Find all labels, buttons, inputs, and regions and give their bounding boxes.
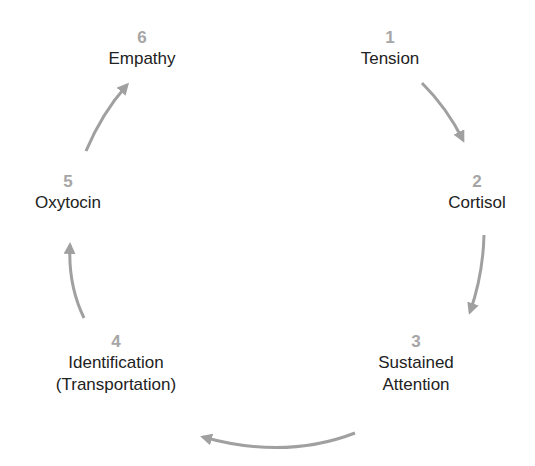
step-label-line-2: Attention	[378, 374, 454, 396]
cycle-arrows	[0, 0, 535, 466]
node-sustained-attention: 3 Sustained Attention	[378, 332, 454, 396]
node-cortisol: 2 Cortisol	[448, 172, 506, 214]
arrow-4-to-5	[70, 245, 84, 318]
step-number: 2	[448, 172, 506, 192]
node-empathy: 6 Empathy	[108, 28, 175, 70]
node-identification: 4 Identification (Transportation)	[56, 332, 176, 396]
step-label: Cortisol	[448, 192, 506, 214]
step-label-line-2: (Transportation)	[56, 374, 176, 396]
step-label: Oxytocin	[35, 192, 101, 214]
arrow-5-to-6	[86, 85, 127, 151]
step-label-line-1: Identification	[56, 352, 176, 374]
arrow-1-to-2	[422, 83, 463, 140]
step-label: Tension	[361, 48, 420, 70]
step-number: 5	[35, 172, 101, 192]
step-number: 6	[108, 28, 175, 48]
step-number: 3	[378, 332, 454, 352]
step-label: Empathy	[108, 48, 175, 70]
step-number: 1	[361, 28, 420, 48]
arrow-3-to-4	[203, 433, 355, 448]
arrow-2-to-3	[470, 235, 484, 312]
node-oxytocin: 5 Oxytocin	[35, 172, 101, 214]
node-tension: 1 Tension	[361, 28, 420, 70]
step-label-line-1: Sustained	[378, 352, 454, 374]
step-number: 4	[56, 332, 176, 352]
